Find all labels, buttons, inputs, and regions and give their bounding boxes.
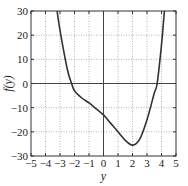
x-tick-label: 1: [115, 157, 121, 169]
x-tick-label: −3: [54, 157, 66, 169]
zero-axes: [31, 11, 176, 156]
y-tick-label: 20: [17, 29, 29, 41]
y-tick-label: −10: [11, 102, 29, 114]
x-tick-label: 4: [159, 157, 165, 169]
x-tick-label: 2: [130, 157, 136, 169]
y-axis-label: f(y): [1, 75, 15, 92]
function-curve: [57, 11, 164, 145]
x-tick-label: 5: [173, 157, 179, 169]
x-tick-label: −1: [83, 157, 95, 169]
x-tick-label: 3: [144, 157, 150, 169]
function-plot: −5−4−3−2−1012345 −30−20−100102030 y f(y): [0, 0, 188, 186]
y-tick-label: −20: [11, 126, 29, 138]
y-tick-label: 0: [23, 78, 29, 90]
y-tick-label: −30: [11, 150, 29, 162]
y-tick-label: 30: [17, 5, 29, 17]
x-tick-labels: −5−4−3−2−1012345: [25, 157, 179, 169]
x-tick-label: −2: [69, 157, 81, 169]
x-tick-label: −4: [40, 157, 52, 169]
y-tick-label: 10: [17, 53, 29, 65]
x-tick-label: 0: [101, 157, 107, 169]
x-axis-label: y: [100, 169, 107, 183]
